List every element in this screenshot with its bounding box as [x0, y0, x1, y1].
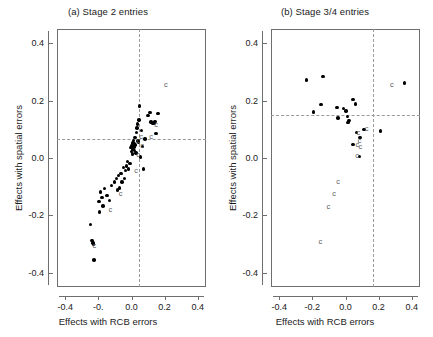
panel-a-title: (a) Stage 2 entries — [0, 6, 216, 17]
data-point — [344, 109, 347, 112]
y-axis-tick — [48, 158, 53, 159]
data-point — [100, 196, 103, 199]
x-axis-tick-label: -0. — [93, 302, 104, 312]
y-axis-tick-label: 0.4 — [19, 38, 44, 48]
x-axis-tick — [98, 296, 99, 300]
y-axis-tick-label: -0.4 — [19, 268, 44, 278]
data-point — [123, 177, 126, 180]
x-axis-tick — [132, 296, 133, 300]
reference-line-vertical — [373, 29, 374, 287]
data-point — [105, 194, 108, 197]
data-point-label: c — [119, 190, 123, 198]
panel-b: (b) Stage 3/4 entries ccccccccccc -0.4-0… — [217, 0, 433, 337]
data-point-label: c — [93, 242, 97, 250]
data-point-label: c — [154, 121, 158, 129]
data-point-label: c — [332, 190, 336, 198]
data-point-label: c — [140, 142, 144, 150]
x-axis-tick — [65, 296, 66, 300]
data-point — [351, 143, 354, 146]
data-point-label: c — [359, 143, 363, 151]
data-point — [146, 114, 149, 117]
x-axis-tick-label: 0.2 — [372, 302, 385, 312]
data-point — [312, 110, 315, 113]
data-point-label: c — [134, 167, 138, 175]
data-point — [120, 180, 123, 183]
data-point — [89, 223, 92, 226]
data-point — [321, 75, 324, 78]
data-point — [351, 98, 354, 101]
data-point — [403, 81, 406, 84]
data-point — [137, 118, 140, 121]
data-point — [101, 204, 104, 207]
data-point — [119, 172, 122, 175]
data-point-label: c — [355, 153, 359, 161]
data-point — [103, 187, 106, 190]
panel-b-y-axis-title: Effects with spatial errors — [227, 105, 238, 211]
x-axis-tick-label: -0.4 — [272, 302, 288, 312]
panel-a: (a) Stage 2 entries ccccccccccc -0.4-0.0… — [0, 0, 216, 337]
data-point — [98, 210, 101, 213]
data-point-label: c — [108, 206, 112, 214]
data-point — [92, 258, 95, 261]
data-point — [305, 78, 308, 81]
panel-a-x-axis-title: Effects with RCB errors — [0, 316, 216, 327]
y-axis-tick — [262, 43, 267, 44]
y-axis-tick — [262, 215, 267, 216]
x-axis-tick — [198, 296, 199, 300]
x-axis-tick-label: -0.2 — [305, 302, 321, 312]
data-point — [379, 129, 382, 132]
x-axis-tick-label: 0.0 — [125, 302, 138, 312]
data-point — [99, 190, 102, 193]
y-axis-tick-label: 0.4 — [233, 38, 258, 48]
data-point-label: c — [318, 238, 322, 246]
y-axis-tick — [48, 215, 53, 216]
data-point — [336, 116, 339, 119]
x-axis-tick-label: 0.0 — [339, 302, 352, 312]
data-point — [110, 184, 113, 187]
data-point — [138, 104, 141, 107]
x-axis-tick — [412, 296, 413, 300]
data-point-label: c — [365, 125, 369, 133]
data-point-label: c — [136, 151, 140, 159]
x-axis-tick-label: 0.4 — [191, 302, 204, 312]
data-point — [135, 126, 138, 129]
data-point-label: c — [149, 133, 153, 141]
panel-b-x-axis-title: Effects with RCB errors — [217, 316, 433, 327]
data-point — [154, 132, 157, 135]
y-axis-tick — [262, 273, 267, 274]
data-point — [135, 131, 138, 134]
y-axis-tick — [262, 101, 267, 102]
data-point — [148, 111, 151, 114]
data-point — [156, 112, 159, 115]
y-axis-tick-label: -0.2 — [233, 210, 258, 220]
figure-scatter-panels: (a) Stage 2 entries ccccccccccc -0.4-0.0… — [0, 0, 433, 337]
x-axis-tick-label: 0.4 — [405, 302, 418, 312]
data-point-label: c — [336, 178, 340, 186]
data-point — [346, 115, 349, 118]
data-point — [142, 167, 145, 170]
y-axis-tick — [48, 43, 53, 44]
data-point — [319, 103, 322, 106]
data-point-label: c — [164, 81, 168, 89]
data-point-label: c — [326, 204, 330, 212]
data-point — [127, 167, 130, 170]
panel-a-plot-area: ccccccccccc — [57, 29, 206, 287]
x-axis-tick — [165, 296, 166, 300]
y-axis-tick-label: -0.4 — [233, 268, 258, 278]
data-point — [346, 121, 349, 124]
panel-b-plot-area: ccccccccccc — [271, 29, 420, 287]
panel-b-title: (b) Stage 3/4 entries — [217, 6, 433, 17]
data-point — [335, 106, 338, 109]
data-point — [354, 102, 357, 105]
x-axis-tick-label: -0.4 — [58, 302, 74, 312]
data-point — [113, 180, 116, 183]
x-axis-tick — [279, 296, 280, 300]
x-axis-tick — [346, 296, 347, 300]
y-axis-tick — [48, 273, 53, 274]
x-axis-tick — [312, 296, 313, 300]
data-point — [115, 177, 118, 180]
x-axis-tick-label: 0.2 — [158, 302, 171, 312]
data-point — [97, 200, 100, 203]
data-point — [128, 162, 131, 165]
x-axis-tick — [379, 296, 380, 300]
